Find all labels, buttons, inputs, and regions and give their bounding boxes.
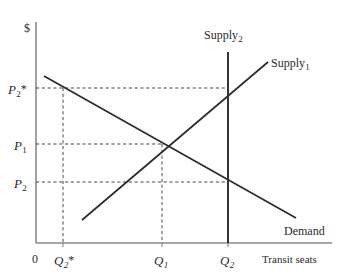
- y-tick-p2star-star: *: [21, 82, 27, 96]
- x-tick-q1-base: Q: [154, 253, 163, 268]
- x-tick-q2-sub: 2: [229, 260, 234, 270]
- supply1-label-base: Supply: [271, 56, 305, 70]
- demand-curve-label: Demand: [284, 225, 325, 237]
- supply2-label-base: Supply: [204, 28, 238, 42]
- y-tick-p2-sub: 2: [22, 183, 27, 193]
- y-axis-unit-label: $: [24, 22, 30, 34]
- y-tick-p2-base: P: [14, 176, 22, 191]
- y-tick-label-p2: P2: [14, 175, 27, 193]
- y-tick-p1-base: P: [14, 138, 22, 153]
- y-tick-p1-sub: 1: [22, 145, 27, 155]
- x-tick-label-q2star: Q2*: [54, 252, 74, 270]
- y-tick-p2star-base: P: [8, 82, 16, 97]
- x-tick-label-q2: Q2: [220, 252, 234, 270]
- supply1-curve: [82, 62, 268, 220]
- x-tick-q2-base: Q: [220, 253, 229, 268]
- chart-canvas: [0, 0, 338, 280]
- x-tick-q1-sub: 1: [163, 260, 168, 270]
- supply-demand-chart: $ P2* P1 P2 0 Q2* Q1 Q2 Transit seats Su…: [0, 0, 338, 280]
- y-tick-label-p2star: P2*: [8, 81, 27, 99]
- demand-curve: [44, 76, 296, 218]
- supply2-curve-label: Supply2: [204, 29, 243, 44]
- supply1-label-sub: 1: [305, 62, 310, 72]
- supply2-label-sub: 2: [238, 34, 243, 44]
- x-tick-label-q1: Q1: [154, 252, 168, 270]
- origin-label: 0: [32, 253, 38, 265]
- x-axis-title: Transit seats: [262, 254, 317, 265]
- x-tick-q2star-base: Q: [54, 253, 63, 268]
- supply1-curve-label: Supply1: [271, 57, 310, 72]
- x-tick-q2star-star: *: [68, 253, 74, 267]
- y-tick-label-p1: P1: [14, 137, 27, 155]
